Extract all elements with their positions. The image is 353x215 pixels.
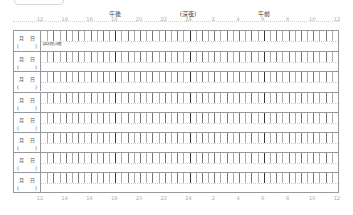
weekday-open: ( (17, 64, 19, 70)
weekday-open: ( (17, 165, 19, 171)
top-hour-label: 22 (161, 16, 167, 22)
top-hour-label: 20 (136, 16, 142, 22)
hour-ticks[interactable] (41, 113, 338, 123)
weekday-close: ) (35, 43, 37, 49)
bottom-hour-label: 18 (111, 195, 117, 201)
top-hour-label: 18 (111, 16, 117, 22)
row-midline (41, 143, 338, 144)
weekday-close: ) (35, 84, 37, 90)
day-row: 月日() (14, 51, 338, 71)
hour-ticks[interactable] (41, 52, 338, 62)
weekday-open: ( (17, 185, 19, 191)
top-hour-label: 8 (286, 16, 289, 22)
month-label: 月 (19, 116, 24, 123)
weekday-close: ) (35, 165, 37, 171)
weekday-open: ( (17, 43, 19, 49)
bottom-hour-label: 8 (286, 195, 289, 201)
day-row: 月日() (14, 112, 338, 132)
weekday-close: ) (35, 185, 37, 191)
weekday-close: ) (35, 105, 37, 111)
bottom-hour-label: 10 (309, 195, 315, 201)
row-midline (41, 183, 338, 184)
date-cell[interactable]: 月日() (14, 153, 41, 172)
row-midline (41, 103, 338, 104)
day-row: 月日() (14, 152, 338, 172)
top-hour-label: 12 (37, 16, 43, 22)
day-label: 日 (30, 55, 35, 62)
month-label: 月 (19, 136, 24, 143)
month-label: 月 (19, 34, 24, 41)
date-cell[interactable]: 月日() (14, 173, 41, 192)
date-cell[interactable]: 月日() (14, 52, 41, 71)
day-label: 日 (30, 176, 35, 183)
weekday-close: ) (35, 125, 37, 131)
title-box (14, 0, 64, 5)
top-hour-label: 16 (86, 16, 92, 22)
day-row: 月日() (14, 92, 338, 112)
bottom-hour-label: 20 (136, 195, 142, 201)
day-label: 日 (30, 136, 35, 143)
row-midline (41, 41, 338, 42)
bottom-hour-label: 16 (86, 195, 92, 201)
date-cell[interactable]: 月日() (14, 31, 41, 51)
date-cell[interactable]: 月日() (14, 113, 41, 132)
day-row: 月日() (14, 71, 338, 91)
top-hour-label: 24 (185, 16, 191, 22)
day-label: 日 (30, 116, 35, 123)
weekday-open: ( (17, 105, 19, 111)
bottom-hour-label: 4 (236, 195, 239, 201)
day-row: 月日() (14, 172, 338, 192)
day-label: 日 (30, 75, 35, 82)
top-hour-label: 14 (62, 16, 68, 22)
day-label: 日 (30, 34, 35, 41)
top-hour-label: 4 (236, 16, 239, 22)
row-midline (41, 163, 338, 164)
bottom-hour-label: 24 (185, 195, 191, 201)
hour-ticks[interactable] (41, 31, 338, 41)
top-hour-label: 2 (212, 16, 215, 22)
top-hour-label: 12 (334, 16, 340, 22)
row-midline (41, 82, 338, 83)
weekday-open: ( (17, 145, 19, 151)
month-label: 月 (19, 55, 24, 62)
date-cell[interactable]: 月日() (14, 133, 41, 152)
example-note: (記入例)入眠 (42, 41, 62, 46)
bottom-hour-label: 2 (212, 195, 215, 201)
bottom-hour-label: 6 (261, 195, 264, 201)
day-label: 日 (30, 96, 35, 103)
hour-ticks[interactable] (41, 72, 338, 82)
bottom-hour-label: 12 (334, 195, 340, 201)
month-label: 月 (19, 176, 24, 183)
row-midline (41, 62, 338, 63)
top-hour-label: 6 (261, 16, 264, 22)
day-row: 月日()(記入例)入眠 (14, 31, 338, 51)
day-row: 月日() (14, 132, 338, 152)
bottom-hour-label: 12 (37, 195, 43, 201)
hour-ticks[interactable] (41, 173, 338, 183)
date-cell[interactable]: 月日() (14, 72, 41, 91)
month-label: 月 (19, 156, 24, 163)
hour-ticks[interactable] (41, 153, 338, 163)
weekday-close: ) (35, 145, 37, 151)
day-label: 日 (30, 156, 35, 163)
weekday-open: ( (17, 84, 19, 90)
month-label: 月 (19, 75, 24, 82)
date-cell[interactable]: 月日() (14, 93, 41, 112)
weekday-open: ( (17, 125, 19, 131)
hour-ticks[interactable] (41, 93, 338, 103)
bottom-hour-label: 22 (161, 195, 167, 201)
month-label: 月 (19, 96, 24, 103)
weekday-close: ) (35, 64, 37, 70)
sleep-log-grid: 月日()(記入例)入眠月日()月日()月日()月日()月日()月日()月日() (13, 30, 339, 193)
hour-ticks[interactable] (41, 133, 338, 143)
top-hour-label: 10 (309, 16, 315, 22)
bottom-hour-label: 14 (62, 195, 68, 201)
row-midline (41, 123, 338, 124)
